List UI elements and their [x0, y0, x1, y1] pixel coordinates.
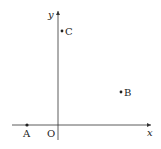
y-axis-label: y — [47, 9, 54, 20]
origin-label: O — [47, 128, 55, 139]
point-a-label: A — [22, 128, 31, 139]
coordinate-diagram: x y O A B C — [0, 0, 161, 149]
point-c-label: C — [65, 26, 73, 37]
point-c-dot — [61, 30, 64, 33]
point-b-dot — [120, 91, 123, 94]
point-b-label: B — [124, 87, 131, 98]
point-a-dot — [25, 123, 28, 126]
x-axis-label: x — [147, 127, 153, 138]
